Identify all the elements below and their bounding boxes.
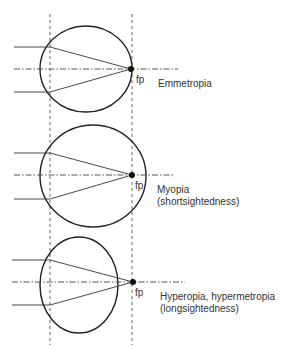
panel-emmetropia: fp Emmetropia bbox=[14, 26, 212, 112]
condition-subtitle: (longsightedness) bbox=[160, 303, 239, 314]
condition-label: Myopia bbox=[157, 184, 190, 195]
light-ray-upper bbox=[14, 153, 132, 175]
focal-point-label: fp bbox=[135, 287, 144, 298]
eyeball-outline bbox=[40, 237, 118, 333]
condition-label: Emmetropia bbox=[158, 78, 212, 89]
panel-hyperopia: fp Hyperopia, hypermetropia (longsighted… bbox=[12, 237, 275, 333]
panel-myopia: fp Myopia (shortsightedness) bbox=[14, 125, 239, 227]
focal-point-dot bbox=[129, 172, 135, 178]
refraction-diagram: fp Emmetropia fp Myopia (shortsightednes… bbox=[0, 0, 294, 349]
focal-point-label: fp bbox=[136, 74, 145, 85]
focal-point-dot bbox=[130, 279, 136, 285]
focal-point-label: fp bbox=[135, 180, 144, 191]
light-ray-upper bbox=[12, 260, 133, 282]
light-ray-upper bbox=[14, 47, 131, 69]
focal-point-dot bbox=[128, 66, 134, 72]
light-ray-lower bbox=[14, 69, 131, 92]
condition-label: Hyperopia, hypermetropia bbox=[160, 291, 275, 302]
light-ray-lower bbox=[12, 282, 133, 305]
condition-subtitle: (shortsightedness) bbox=[157, 196, 239, 207]
light-ray-lower bbox=[14, 175, 132, 199]
